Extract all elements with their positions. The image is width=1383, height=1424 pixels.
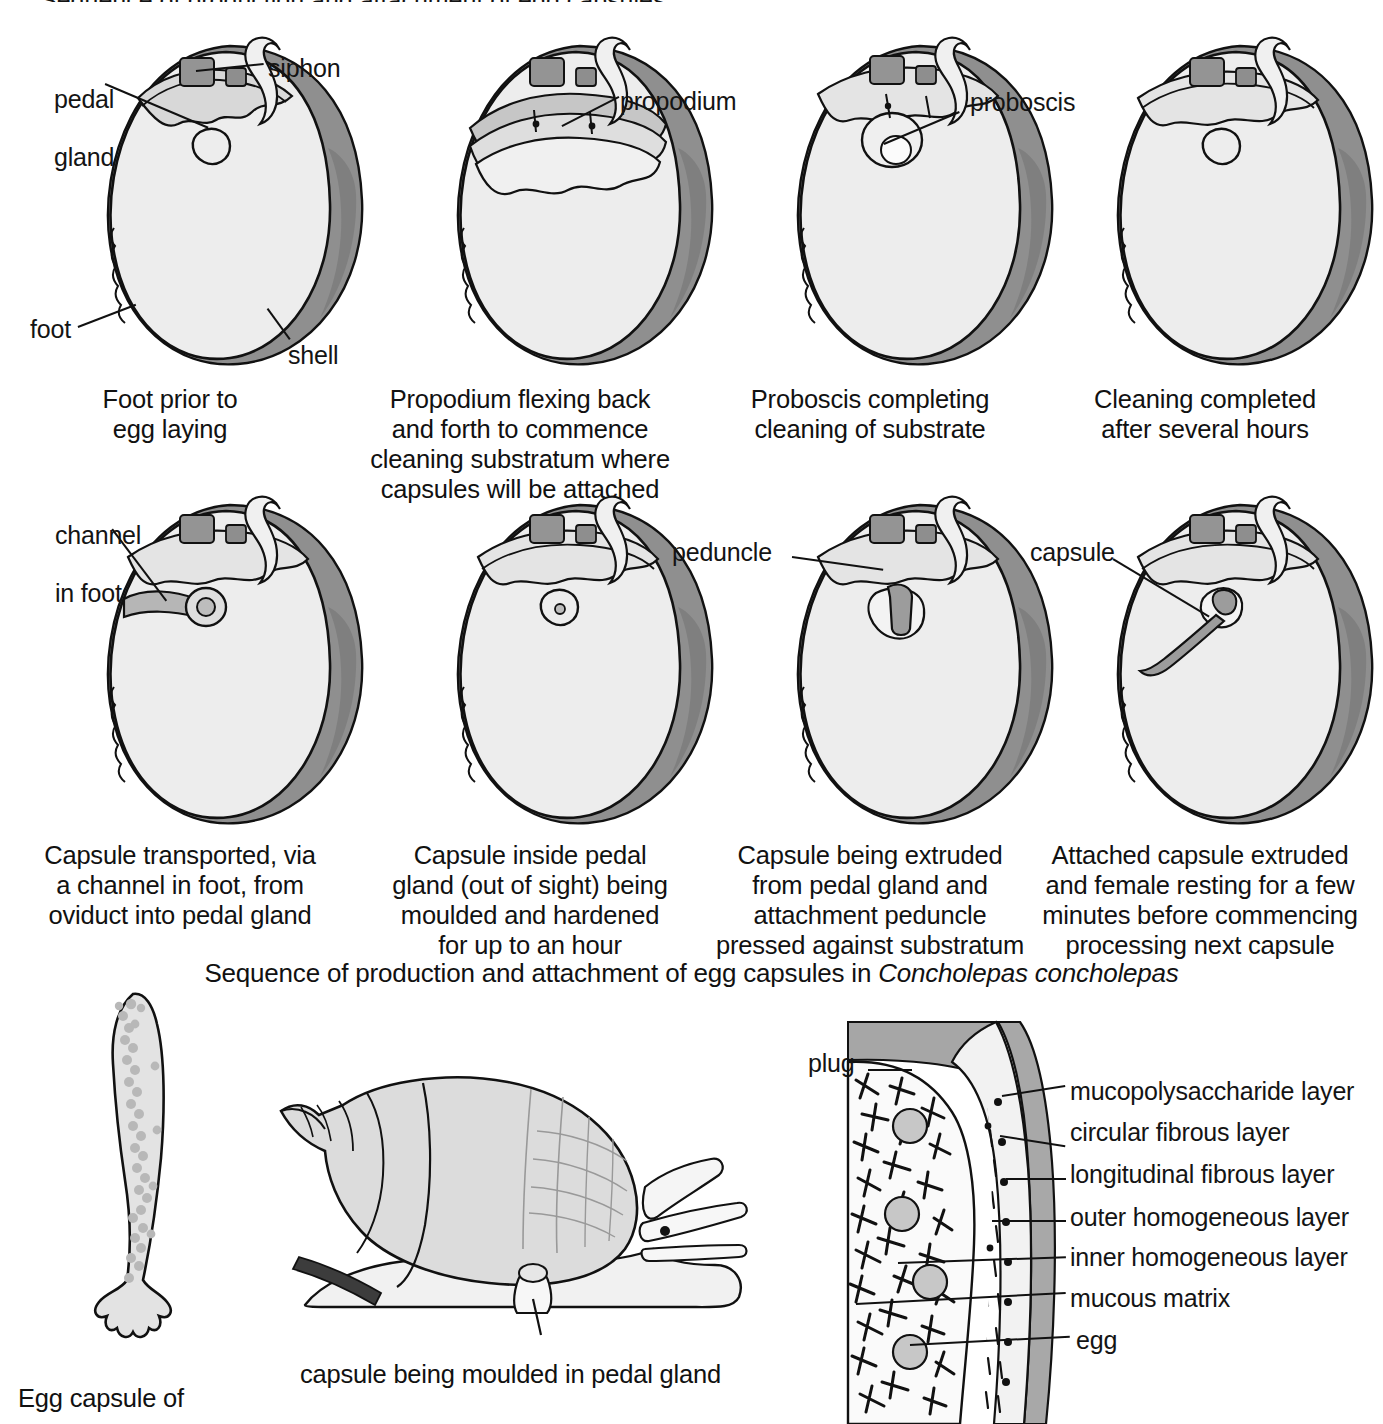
label-inner-homogeneous-layer: inner homogeneous layer [1070,1243,1348,1272]
panel-3-caption: Proboscis completing cleaning of substra… [710,384,1030,444]
sequence-caption-prefix: Sequence of production and attachment of… [204,958,878,988]
panel-5-caption: Capsule transported, via a channel in fo… [20,840,340,930]
label-mucopolysaccharide-layer: mucopolysaccharide layer [1070,1077,1354,1106]
panel-2-caption: Propodium flexing back and forth to comm… [355,384,685,504]
panel-7-illustration [770,487,1070,827]
label-plug: plug [808,1049,854,1078]
label-pedal-gland-line1: pedal [54,85,114,113]
label-channel-line1: channel [55,521,141,549]
panel-4-caption: Cleaning completed after several hours [1050,384,1360,444]
panel-4-illustration [1090,28,1383,373]
capsule-cross-section-illustration [848,1022,1088,1424]
panel-6-caption: Capsule inside pedal gland (out of sight… [370,840,690,960]
label-pedal-gland-line2: gland [54,143,114,171]
snail-caption: capsule being moulded in pedal gland [300,1359,820,1389]
label-propodium: propodium [620,87,736,116]
leader-plug [868,1069,912,1071]
sequence-caption-species: Concholepas concholepas [878,958,1178,988]
panel-8-illustration [1090,487,1383,827]
panel-2-illustration [430,28,730,373]
figure-page: Sequence of production and attachment of… [0,0,1383,1424]
label-capsule: capsule [1030,538,1115,567]
label-foot: foot [30,315,71,344]
panel-8-caption: Attached capsule extruded and female res… [1030,840,1370,960]
egg-capsule-caption: Egg capsule of [18,1383,278,1413]
top-cutoff-text: Sequence of production and attachment of… [40,0,665,2]
label-channel-in-foot: channel in foot [28,492,141,637]
label-siphon: siphon [268,54,340,83]
label-peduncle: peduncle [672,538,772,567]
panel-7-caption: Capsule being extruded from pedal gland … [700,840,1040,960]
label-shell: shell [288,341,338,370]
label-circular-fibrous-layer: circular fibrous layer [1070,1118,1289,1147]
label-mucous-matrix: mucous matrix [1070,1284,1230,1313]
label-outer-homogeneous-layer: outer homogeneous layer [1070,1203,1349,1232]
panel-1-caption: Foot prior to egg laying [20,384,320,444]
sequence-caption: Sequence of production and attachment of… [0,958,1383,988]
egg-capsule-illustration [45,990,225,1360]
label-longitudinal-fibrous-layer: longitudinal fibrous layer [1070,1160,1334,1189]
leader-longitudinal-fibrous-layer [1006,1178,1066,1180]
label-proboscis: proboscis [970,88,1075,117]
label-channel-line2: in foot [55,579,122,607]
panel-3-illustration [770,28,1070,373]
label-egg: egg [1076,1326,1117,1355]
snail-illustration [245,1035,775,1335]
label-pedal-gland: pedal gland [27,56,114,201]
leader-outer-homogeneous-layer [992,1220,1066,1222]
